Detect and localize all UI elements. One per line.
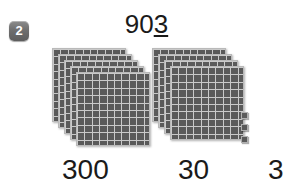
ones-unit-cubes [241,112,253,144]
tens-block-stack [152,48,244,148]
ones-place-label: 3 [268,154,284,186]
tens-place-label: 30 [178,154,209,186]
hundreds-flat [76,72,150,146]
hundreds-block-stack [52,48,144,148]
base-ten-blocks-diagram: 2 903 300 30 3 [0,0,293,188]
unit-cube [241,112,248,119]
page-title: 903 [0,9,293,40]
highlighted-digit: 3 [154,9,168,39]
number-prefix: 90 [125,9,154,39]
hundreds-place-label: 300 [62,154,109,186]
unit-cube [241,124,248,131]
tens-flat [170,66,244,140]
unit-cube [241,136,248,143]
